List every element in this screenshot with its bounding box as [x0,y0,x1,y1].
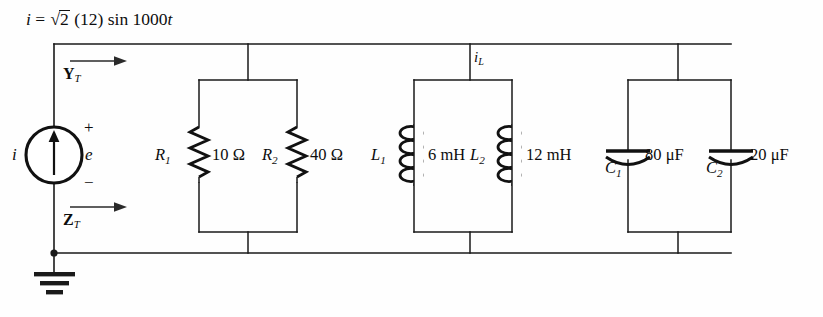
component-value-R1: 10 Ω [212,147,245,164]
source-equation-current: i [26,9,31,29]
source-equation-variable: t [168,9,173,29]
component-value-L1: 6 mH [428,147,465,164]
resistor-R1-symbol [190,127,208,177]
source-current-label: i [12,146,17,163]
polarity-plus-label: + [84,119,94,136]
ground-icon [34,272,75,294]
refdes-letter-C2: C [706,158,717,177]
impedance-symbol: Z [63,211,74,228]
component-value-C1: 80 μF [645,147,684,164]
component-refdes-L1: L1 [371,147,386,166]
polarity-minus-label: − [84,174,94,191]
resistor-R2-symbol [288,127,306,177]
source-equation-function: sin [108,9,128,29]
current-source-symbol [26,127,82,183]
component-value-L2: 12 mH [526,147,571,164]
refdes-letter-R2: R [262,145,272,164]
inductor-L2-symbol [498,124,521,186]
source-equation-amplitude: (12) [74,9,103,29]
admittance-subscript: T [75,72,81,84]
refdes-subscript-R2: 2 [272,154,278,166]
refdes-letter-C1: C [605,158,616,177]
circuit-schematic-drawing [0,0,823,317]
refdes-subscript-C2: 2 [717,167,723,179]
component-refdes-C1: C1 [605,160,622,179]
component-refdes-R1: R1 [155,147,171,166]
component-refdes-L2: L2 [470,147,485,166]
source-equation-equals: = [35,9,45,29]
refdes-letter-L2: L [470,145,479,164]
impedance-subscript: T [74,218,80,230]
refdes-letter-L1: L [371,145,380,164]
source-voltage-label: e [85,146,93,163]
ground-junction-dot [50,249,57,256]
source-equation-argument: 1000 [133,9,168,29]
component-refdes-C2: C2 [706,160,723,179]
admittance-symbol: Y [63,65,75,82]
inductor-current-subscript: L [478,56,484,67]
inductor-current-label: iL [474,50,484,67]
component-refdes-R2: R2 [262,147,278,166]
refdes-subscript-L1: 1 [380,154,386,166]
component-value-C2: 20 μF [750,147,789,164]
refdes-subscript-R1: 1 [165,154,171,166]
admittance-label: YT [63,66,81,84]
circuit-figure: i = √2 (12) sin 1000t i + e − YT ZT iL R… [0,0,823,317]
refdes-subscript-L2: 2 [479,154,485,166]
refdes-subscript-C1: 1 [616,167,622,179]
impedance-arrow-icon [70,202,127,212]
radicand-value: 2 [59,10,70,29]
admittance-arrow-icon [70,56,127,66]
source-equation: i = √2 (12) sin 1000t [26,10,172,29]
inductor-L1-symbol [400,124,423,186]
refdes-letter-R1: R [155,145,165,164]
impedance-label: ZT [63,212,80,230]
component-value-R2: 40 Ω [310,147,343,164]
source-equation-radical: √2 [50,10,70,29]
